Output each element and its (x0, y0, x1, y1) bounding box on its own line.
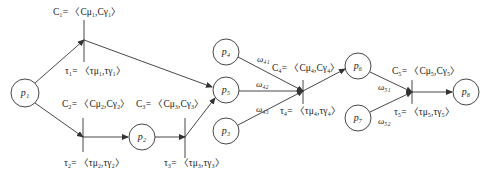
transition-t4-tau-label: τ₄= 〈τμ₄,τγ₄〉 (280, 107, 341, 117)
transition-t2-tau-label: τ₂= 〈τμ₂,τγ₂〉 (64, 159, 125, 169)
transition-t3-c-label: C₃= 〈Cμ₃,Cγ₃〉 (136, 100, 204, 110)
weight-w41: ω₄₁ (257, 55, 270, 64)
petri-net-diagram: p₁ p₂ p₃ p₄ p₅ p₆ p₇ p₈ C₁= 〈Cμ₁,Cγ₁〉 τ₁… (0, 0, 492, 180)
transition-t2-c-label: C₂= 〈Cμ₂,Cγ₂〉 (62, 100, 130, 110)
transition-t5-tau-label: τ₅= 〈τμ₅,τγ₅〉 (394, 108, 455, 118)
weight-w51: ω₅₁ (378, 83, 391, 92)
weight-w52: ω₅₂ (378, 117, 391, 126)
diagram-graphics (0, 0, 492, 180)
weight-w43: ω₄₃ (256, 105, 269, 114)
place-label-p7: p₇ (348, 113, 368, 123)
transition-t1-tau-label: τ₁= 〈τμ₁,τγ₁〉 (65, 67, 126, 77)
arc-p1-t1 (35, 40, 84, 83)
transition-t1-c-label: C₁= 〈Cμ₁,Cγ₁〉 (53, 8, 121, 18)
place-label-p5: p₅ (216, 85, 236, 95)
place-label-p8: p₈ (456, 87, 476, 97)
place-label-p1: p₁ (15, 88, 35, 98)
transition-t5-c-label: C₅= 〈Cμ₅,Cγ₅〉 (392, 67, 460, 77)
place-label-p2: p₂ (132, 132, 152, 142)
arc-t1-p5 (84, 40, 212, 87)
transition-t3-tau-label: τ₃= 〈τμ₃,τγ₃〉 (164, 159, 225, 169)
place-label-p3: p₃ (216, 126, 236, 136)
place-label-p6: p₆ (348, 61, 368, 71)
weight-w42: ω₄₂ (256, 80, 269, 89)
place-label-p4: p₄ (216, 47, 236, 57)
transition-t4-c-label: C₄= 〈Cμ₄,Cγ₄〉 (272, 64, 340, 74)
